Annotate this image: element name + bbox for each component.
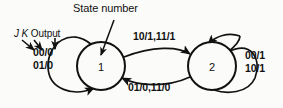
self-loop-label-state-2-line1: 00/1	[245, 49, 265, 62]
self-loop-label-state-1-line1: 00/0	[33, 46, 53, 59]
self-loop-label-state-1: 00/001/0	[33, 46, 53, 72]
state-label-1: 1	[94, 61, 108, 73]
self-loop-label-state-2-line2: 10/1	[245, 62, 265, 75]
variable-k: K	[22, 28, 29, 39]
state-label-2: 2	[205, 61, 219, 73]
figure-canvas: State number J K Output 00/001/0 00/110/…	[0, 0, 283, 108]
annotation-state-number: State number	[73, 3, 138, 15]
transition-label-state2-to-state1: 01/0,11/0	[128, 82, 170, 93]
annotation-jk-output: J K Output	[14, 29, 60, 40]
self-loop-label-state-1-line2: 01/0	[33, 59, 53, 72]
transition-label-state1-to-state2: 10/1,11/1	[133, 31, 175, 42]
output-word: Output	[31, 28, 60, 39]
variable-j: J	[14, 28, 19, 39]
edge-state1-to-state2	[124, 48, 190, 57]
self-loop-label-state-2: 00/110/1	[245, 49, 265, 75]
